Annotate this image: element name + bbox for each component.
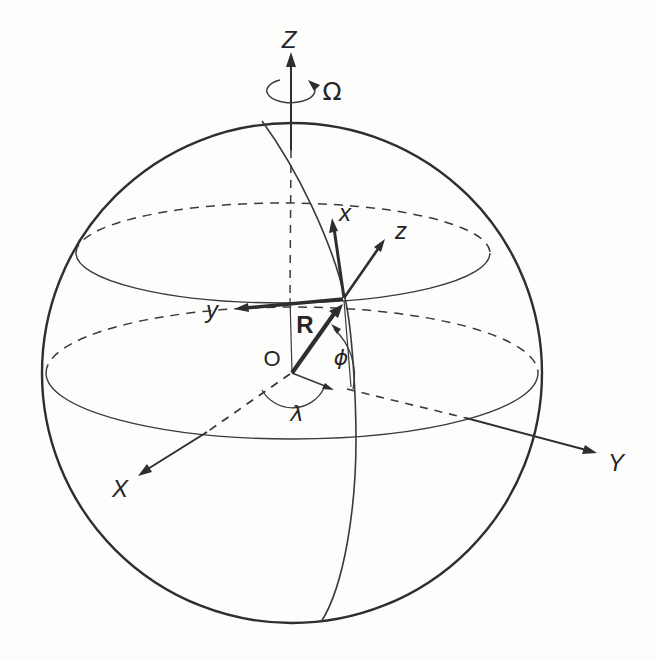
- angular-velocity-label: Ω: [322, 77, 341, 106]
- rotating-sphere-figure: Z Ω x z y R O ϕ λ X Y: [0, 0, 656, 659]
- origin-label: O: [263, 346, 280, 371]
- z-axis-label: Z: [281, 26, 298, 53]
- longitude-angle-label: λ: [289, 401, 303, 426]
- latitude-angle-label: ϕ: [334, 345, 349, 370]
- x-axis-label: X: [111, 475, 129, 502]
- sphere-coordinate-diagram: Z Ω x z y R O ϕ λ X Y: [0, 0, 656, 659]
- position-vector-label: R: [296, 311, 313, 338]
- local-z-label: z: [394, 217, 407, 244]
- local-y-label: y: [204, 296, 220, 323]
- y-axis-label: Y: [608, 449, 626, 476]
- local-x-label: x: [338, 199, 352, 226]
